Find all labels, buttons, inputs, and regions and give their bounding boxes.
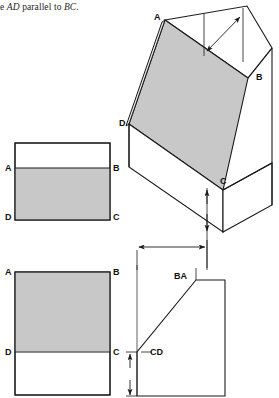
technical-drawing-svg xyxy=(0,0,279,398)
lower-view-label-d: D xyxy=(5,348,12,357)
side-profile-view-group xyxy=(126,240,225,396)
drawing-canvas xyxy=(0,0,279,398)
side-view-label-ba: BA xyxy=(174,272,187,281)
upper-rectangle-view-group xyxy=(15,143,110,220)
lower-rectangle-view-group xyxy=(15,272,110,395)
upper-view-shaded-region xyxy=(16,168,110,220)
lower-view-label-b: B xyxy=(113,268,120,277)
pictorial-label-c: C xyxy=(220,177,227,186)
pictorial-view-group xyxy=(126,6,272,268)
pictorial-label-a: A xyxy=(154,13,161,22)
side-view-outline xyxy=(137,280,225,396)
pictorial-label-d: D xyxy=(119,119,126,128)
lower-view-label-c: C xyxy=(113,348,120,357)
prism-right-lower-face xyxy=(223,163,272,232)
pictorial-label-b: B xyxy=(256,73,263,82)
lower-view-shaded-region xyxy=(16,273,110,352)
upper-view-label-c: C xyxy=(113,213,120,222)
upper-view-label-b: B xyxy=(113,164,120,173)
side-view-label-cd: CD xyxy=(150,348,163,357)
upper-view-label-a: A xyxy=(5,164,12,173)
lower-view-label-a: A xyxy=(5,268,12,277)
upper-view-label-d: D xyxy=(5,213,12,222)
